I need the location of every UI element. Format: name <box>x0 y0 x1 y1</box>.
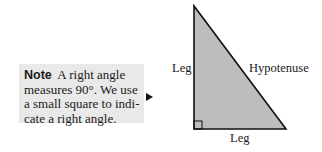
hypotenuse-label: Hypotenuse <box>249 61 309 76</box>
right-triangle-figure <box>0 0 322 152</box>
left-leg-label: Leg <box>172 61 191 76</box>
bottom-leg-label: Leg <box>230 131 249 146</box>
